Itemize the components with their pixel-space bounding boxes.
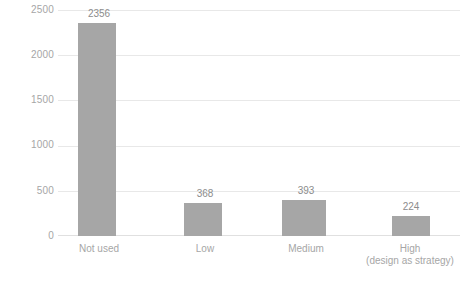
bar-value-low: 368 — [164, 188, 246, 199]
bar-chart: 2500 2000 1500 1000 500 0 2356 368 393 2… — [0, 0, 472, 287]
y-tick-label: 0 — [10, 231, 54, 241]
bar-value-medium: 393 — [265, 185, 347, 196]
bar-medium[interactable] — [282, 200, 326, 236]
y-tick-label: 1000 — [10, 140, 54, 150]
category-sublabel-text: (design as strategy) — [348, 255, 472, 267]
y-tick-label: 500 — [10, 186, 54, 196]
bar-high[interactable] — [392, 216, 430, 236]
bar-value-not-used: 2356 — [58, 8, 140, 19]
gridline-500 — [58, 191, 460, 192]
gridline-1000 — [58, 146, 460, 147]
y-tick-label: 2000 — [10, 50, 54, 60]
category-label-text: Medium — [288, 243, 324, 254]
bar-not-used[interactable] — [78, 23, 116, 236]
y-tick-label: 1500 — [10, 95, 54, 105]
category-label-high: High (design as strategy) — [348, 243, 472, 267]
category-label-text: Not used — [79, 243, 119, 254]
category-label-text: High — [400, 243, 421, 254]
gridline-1500 — [58, 100, 460, 101]
category-label-medium: Medium — [263, 243, 349, 255]
y-tick-label: 2500 — [10, 5, 54, 15]
bar-low[interactable] — [184, 203, 222, 236]
category-label-not-used: Not used — [56, 243, 142, 255]
bar-value-high: 224 — [370, 201, 452, 212]
category-label-low: Low — [162, 243, 248, 255]
gridline-2000 — [58, 55, 460, 56]
clipped-caption-strip — [0, 278, 472, 287]
category-label-text: Low — [196, 243, 214, 254]
